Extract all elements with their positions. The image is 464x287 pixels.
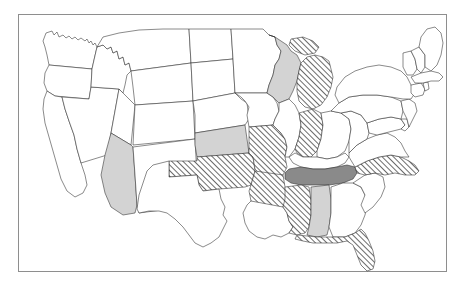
state-oh[interactable]: Ohio	[317, 111, 351, 159]
state-ma[interactable]: Massachusetts	[411, 71, 443, 83]
map-frame-border: WashingtonOregonCaliforniaNevadaIdahoMon…	[18, 14, 447, 272]
state-wa[interactable]: Washington	[43, 31, 97, 69]
state-ga[interactable]: Georgia	[329, 183, 367, 237]
us-states-map[interactable]: WashingtonOregonCaliforniaNevadaIdahoMon…	[19, 15, 448, 273]
map-page: WashingtonOregonCaliforniaNevadaIdahoMon…	[0, 0, 464, 287]
state-ct[interactable]: Connecticut	[411, 83, 425, 97]
state-nd[interactable]: North Dakota	[189, 29, 233, 63]
state-co[interactable]: Colorado	[133, 101, 195, 145]
states-layer: WashingtonOregonCaliforniaNevadaIdahoMon…	[43, 27, 443, 271]
